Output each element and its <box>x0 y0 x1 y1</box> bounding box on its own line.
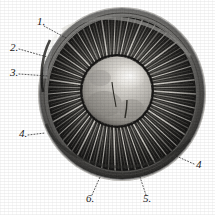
label-1: 1. <box>37 15 45 27</box>
label-6: 6. <box>86 192 94 204</box>
label-3: 3. <box>9 66 18 78</box>
figure-plate: 1.2.3.4.45.6. Engraved plate of a circul… <box>0 0 215 215</box>
plate-illustration: 1.2.3.4.45.6. <box>0 0 215 215</box>
label-4-left: 4. <box>19 127 27 139</box>
label-4-right: 4 <box>196 158 202 170</box>
label-2: 2. <box>10 41 18 53</box>
label-5: 5. <box>143 192 151 204</box>
